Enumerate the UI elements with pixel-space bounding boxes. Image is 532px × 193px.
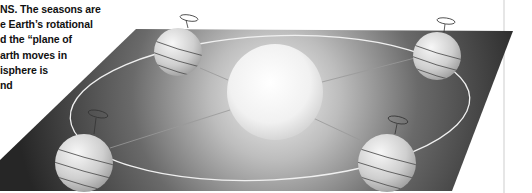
caption-line: d the “plane of <box>0 32 101 47</box>
caption-line: NS. The seasons are <box>0 2 101 17</box>
sun <box>227 44 323 140</box>
caption-line: isphere is <box>0 63 101 78</box>
caption-text: NS. The seasons are e Earth’s rotational… <box>0 2 101 93</box>
caption-line: e Earth’s rotational <box>0 17 101 32</box>
caption-line: nd <box>0 78 101 93</box>
caption-line: arth moves in <box>0 48 101 63</box>
